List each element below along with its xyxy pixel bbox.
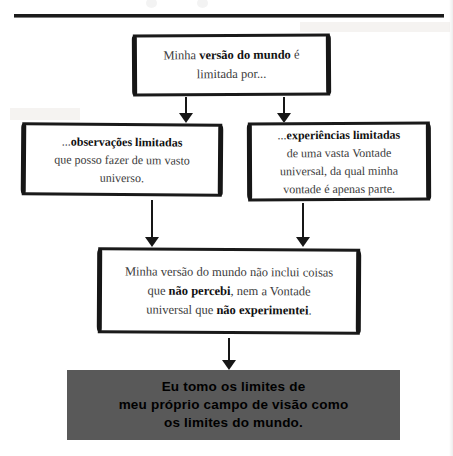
conclusion-line2: meu próprio campo de visão como	[119, 397, 349, 412]
observations-ellipsis: ...	[62, 134, 71, 148]
premise-line1-strong: versão do mundo	[199, 48, 291, 63]
synthesis-line3-post: .	[308, 303, 311, 317]
limited-observations-box: ...observações limitadas que posso fazer…	[22, 122, 223, 197]
arrow-head	[222, 360, 236, 370]
synthesis-line3-strong: não experimentei	[216, 302, 308, 316]
arrow-shaft	[302, 203, 304, 238]
arrow-premise-to-observations	[179, 97, 193, 123]
premise-line1-pre: Minha	[163, 48, 199, 62]
arrow-premise-to-experiences	[277, 97, 291, 123]
arrow-head	[145, 237, 159, 247]
arrow-synthesis-to-conclusion	[222, 338, 236, 371]
synthesis-line3-pre: universal que	[146, 302, 216, 316]
synthesis-line2-pre: que	[147, 283, 168, 297]
conclusion-box: Eu tomo os limites de meu próprio campo …	[67, 370, 400, 440]
synthesis-line2-strong: não percebi	[169, 283, 231, 297]
top-divider-rule	[14, 14, 444, 17]
experiences-line4: vontade é apenas parte.	[283, 181, 395, 195]
premise-line2: limitada por...	[197, 67, 267, 81]
scan-artifact-blotch	[10, 108, 80, 120]
observations-line3: universo.	[100, 170, 144, 184]
synthesis-line2-post: , nem a Vontade	[230, 284, 310, 298]
synthesis-line1: Minha versão do mundo não inclui coisas	[125, 264, 333, 279]
premise-box: Minha versão do mundo é limitada por...	[133, 33, 330, 96]
arrow-head	[179, 113, 193, 123]
scan-artifact-speck	[197, 0, 208, 8]
experiences-ellipsis: ...	[278, 128, 287, 142]
arrow-head	[296, 237, 310, 247]
experiences-line3: universal, da qual minha	[280, 163, 398, 178]
limited-experiences-text: ...experiências limitadas de uma vasta V…	[251, 125, 427, 198]
scan-artifact-edge	[449, 0, 453, 456]
limited-observations-text: ...observações limitadas que posso fazer…	[25, 132, 219, 188]
synthesis-box: Minha versão do mundo não inclui coisas …	[98, 247, 360, 334]
conclusion-text: Eu tomo os limites de meu próprio campo …	[119, 378, 349, 432]
premise-line1-post: é	[291, 48, 300, 62]
arrow-shaft	[228, 338, 230, 361]
observations-strong: observações limitadas	[71, 134, 183, 149]
arrow-experiences-to-synthesis	[296, 203, 310, 248]
scan-artifact-blotch	[300, 22, 450, 32]
premise-box-text: Minha versão do mundo é limitada por...	[136, 45, 327, 84]
conclusion-line3: os limites do mundo.	[164, 415, 303, 430]
diagram-page: Minha versão do mundo é limitada por... …	[0, 0, 453, 456]
arrow-shaft	[151, 200, 153, 238]
scan-artifact-speck	[146, 0, 157, 8]
conclusion-line1: Eu tomo os limites de	[162, 379, 306, 394]
arrow-shaft	[283, 97, 285, 114]
synthesis-text: Minha versão do mundo não inclui coisas …	[101, 262, 357, 320]
arrow-observations-to-synthesis	[145, 200, 159, 248]
experiences-line2: de uma vasta Vontade	[287, 145, 392, 159]
arrow-shaft	[185, 97, 187, 114]
observations-line2: que posso fazer de um vasto	[54, 152, 190, 167]
experiences-strong: experiências limitadas	[287, 127, 401, 141]
limited-experiences-box: ...experiências limitadas de uma vasta V…	[248, 122, 430, 202]
